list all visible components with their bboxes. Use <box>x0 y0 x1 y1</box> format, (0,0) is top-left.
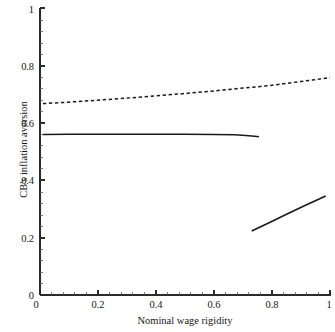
series-lower-solid-curve <box>252 196 326 231</box>
x-axis-title: Nominal wage rigidity <box>95 315 275 326</box>
x-axis-major-ticks <box>40 290 330 295</box>
series-upper-dashed-curve <box>43 78 330 104</box>
y-tick-label-1: 0.2 <box>6 233 34 244</box>
x-tick-label-0: 0 <box>33 299 38 310</box>
x-tick-label-4: 0.8 <box>266 299 279 310</box>
x-tick-label-3: 0.6 <box>208 299 221 310</box>
y-tick-label-4: 0.8 <box>6 61 34 72</box>
y-tick-label-5: 1 <box>6 4 34 15</box>
y-axis-title: CB's inflation aversion <box>18 75 29 225</box>
x-tick-label-2: 0.4 <box>150 299 163 310</box>
x-tick-label-5: 1 <box>326 299 331 310</box>
chart-figure: 0 0.2 0.4 0.6 0.8 1 0 0.2 0.4 0.6 0.8 1 … <box>0 0 335 332</box>
x-tick-label-1: 0.2 <box>92 299 105 310</box>
y-tick-label-0: 0 <box>6 290 34 301</box>
chart-plot-area <box>0 0 335 332</box>
data-series-group <box>43 78 330 231</box>
series-middle-solid-curve <box>43 134 259 137</box>
y-axis-major-ticks <box>40 8 45 295</box>
